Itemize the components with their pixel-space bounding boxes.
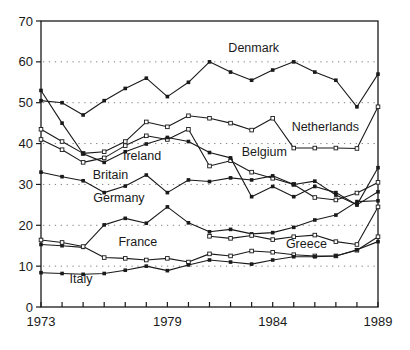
data-point-denmark <box>187 80 191 84</box>
x-axis-tick-label: 1989 <box>364 314 393 329</box>
series-line-britain <box>41 172 378 205</box>
data-point-greece <box>355 243 359 247</box>
data-point-italy <box>187 263 191 267</box>
x-axis-tick-label: 1973 <box>27 314 56 329</box>
y-axis-tick-label: 20 <box>19 218 33 233</box>
series-label-ireland: Ireland <box>123 149 161 163</box>
data-point-denmark <box>208 60 212 64</box>
data-point-ireland <box>313 185 317 189</box>
data-point-ireland <box>102 161 106 165</box>
data-point-netherlands <box>229 121 233 125</box>
data-point-netherlands <box>166 125 170 129</box>
data-point-italy <box>292 255 296 259</box>
data-point-netherlands <box>355 147 359 151</box>
series-label-greece: Greece <box>286 237 327 251</box>
data-point-italy <box>229 260 233 264</box>
data-point-italy <box>145 264 149 268</box>
line-chart-canvas: 0102030405060701973197919841989DenmarkNe… <box>0 0 410 350</box>
data-point-ireland <box>187 140 191 144</box>
data-point-france <box>250 249 254 253</box>
data-point-netherlands <box>102 150 106 154</box>
data-point-netherlands <box>60 140 64 144</box>
series-label-denmark: Denmark <box>228 41 279 55</box>
data-point-denmark <box>145 76 149 80</box>
series-line-germany <box>41 201 378 248</box>
data-point-greece <box>229 237 233 241</box>
data-point-denmark <box>250 78 254 82</box>
data-point-italy <box>102 272 106 276</box>
data-point-greece <box>250 234 254 238</box>
series-line-italy <box>41 242 378 275</box>
data-point-italy <box>208 258 212 262</box>
data-point-france <box>102 256 106 260</box>
data-point-belgium <box>123 144 127 148</box>
data-point-denmark <box>102 99 106 103</box>
series-label-britain: Britain <box>93 168 128 182</box>
data-point-belgium <box>376 181 380 185</box>
data-point-denmark <box>229 70 233 74</box>
series-markers-germany <box>39 199 380 249</box>
data-point-britain <box>355 203 359 207</box>
y-axis-tick-label: 10 <box>19 259 33 274</box>
data-point-greece <box>376 205 380 209</box>
series-label-italy: Italy <box>70 272 94 286</box>
data-point-germany <box>313 218 317 222</box>
data-point-italy <box>355 248 359 252</box>
data-point-britain <box>208 180 212 184</box>
data-point-britain <box>81 179 85 183</box>
data-point-germany <box>292 226 296 230</box>
data-point-germany <box>271 231 275 235</box>
data-point-britain <box>60 175 64 179</box>
series-markers-denmark <box>39 60 380 117</box>
data-point-france <box>376 235 380 239</box>
data-point-britain <box>187 178 191 182</box>
data-point-britain <box>39 170 43 174</box>
series-label-netherlands: Netherlands <box>292 120 359 134</box>
data-point-france <box>271 250 275 254</box>
data-point-netherlands <box>39 127 43 131</box>
data-point-france <box>60 241 64 245</box>
data-point-italy <box>39 271 43 275</box>
data-point-denmark <box>292 60 296 64</box>
data-point-ireland <box>60 121 64 125</box>
data-point-netherlands <box>271 116 275 120</box>
y-axis-tick-label: 30 <box>19 177 33 192</box>
data-point-ireland <box>250 195 254 199</box>
data-point-germany <box>102 223 106 227</box>
data-point-germany <box>208 230 212 234</box>
x-axis-tick-label: 1984 <box>258 314 287 329</box>
data-point-belgium <box>355 191 359 195</box>
data-point-denmark <box>39 99 43 103</box>
data-point-greece <box>334 240 338 244</box>
data-point-britain <box>145 173 149 177</box>
data-point-germany <box>187 221 191 225</box>
x-axis-tick-label: 1979 <box>153 314 182 329</box>
data-point-denmark <box>271 68 275 72</box>
data-point-ireland <box>39 89 43 93</box>
data-point-belgium <box>250 170 254 174</box>
data-point-netherlands <box>187 114 191 118</box>
data-point-belgium <box>81 161 85 165</box>
data-point-france <box>145 258 149 262</box>
data-point-britain <box>271 174 275 178</box>
data-point-ireland <box>145 142 149 146</box>
y-axis-tick-label: 60 <box>19 54 33 69</box>
data-point-denmark <box>355 105 359 109</box>
data-point-denmark <box>123 87 127 91</box>
data-point-netherlands <box>208 116 212 120</box>
series-label-france: France <box>118 235 157 249</box>
data-point-netherlands <box>250 128 254 132</box>
data-point-germany <box>355 200 359 204</box>
data-point-britain <box>229 176 233 180</box>
data-point-britain <box>313 179 317 183</box>
data-point-ireland <box>81 152 85 156</box>
data-point-france <box>229 254 233 258</box>
series-line-denmark <box>41 62 378 115</box>
data-point-germany <box>376 199 380 203</box>
data-point-france <box>166 257 170 261</box>
data-point-italy <box>376 240 380 244</box>
data-point-germany <box>334 213 338 217</box>
data-point-italy <box>334 254 338 258</box>
data-point-france <box>81 245 85 249</box>
data-point-italy <box>313 255 317 259</box>
